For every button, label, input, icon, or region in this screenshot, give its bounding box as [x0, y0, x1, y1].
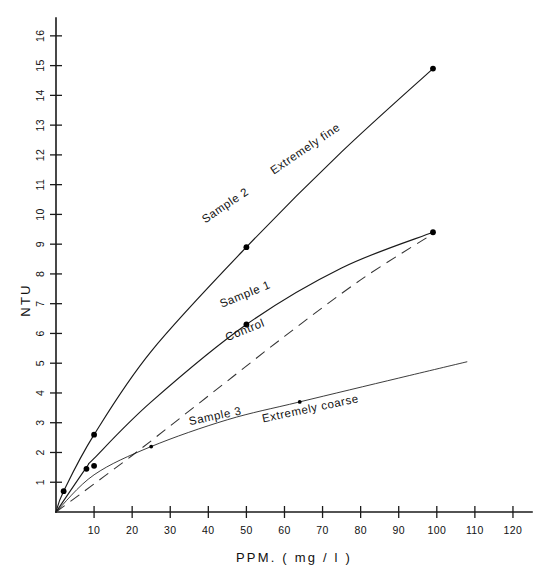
y-tick-label: 16: [34, 30, 46, 42]
series-line-sample-3: [56, 362, 467, 512]
y-tick-label: 7: [34, 301, 46, 307]
y-tick-label: 12: [34, 149, 46, 161]
x-tick-label: 80: [354, 524, 366, 536]
curve-label-sample-2: Sample 2: [200, 185, 251, 225]
y-tick-label: 13: [34, 119, 46, 131]
x-tick-label: 100: [427, 524, 446, 536]
y-tick-label: 2: [34, 449, 46, 455]
data-point: [84, 466, 90, 472]
data-point: [91, 432, 97, 438]
y-axis-title: NTU: [18, 283, 33, 316]
chart-figure: 12345678910111213141516 1020304050607080…: [0, 0, 545, 573]
x-axis-tick-labels: 102030405060708090100110120: [88, 524, 522, 536]
curve-label-extremely-fine: Extremely fine: [268, 121, 342, 176]
series-line-sample-1: [56, 232, 433, 512]
x-axis-title: PPM. ( mg / l ): [236, 550, 352, 565]
data-point: [149, 445, 153, 449]
x-tick-label: 110: [466, 524, 484, 536]
y-tick-label: 11: [34, 179, 46, 191]
y-axis-tick-labels: 12345678910111213141516: [34, 30, 46, 486]
y-tick-label: 4: [34, 390, 46, 396]
turbidity-ntu-vs-ppm-chart: 12345678910111213141516 1020304050607080…: [0, 0, 545, 573]
y-tick-label: 14: [34, 89, 46, 101]
curve-label-control: Control: [224, 316, 267, 343]
curve-annotations: Sample 2Extremely fineSample 1ControlSam…: [188, 121, 360, 427]
x-tick-label: 90: [392, 524, 404, 536]
y-tick-label: 1: [34, 479, 46, 485]
data-point: [91, 463, 97, 469]
y-tick-label: 9: [34, 241, 46, 247]
x-tick-label: 20: [126, 524, 138, 536]
y-tick-label: 15: [34, 59, 46, 71]
data-point: [430, 229, 436, 235]
x-tick-label: 30: [164, 524, 176, 536]
curve-label-extremely-coarse: Extremely coarse: [261, 392, 360, 424]
axis-lines: [56, 18, 532, 512]
series-line-control: [56, 234, 433, 512]
x-tick-label: 60: [278, 524, 290, 536]
data-point: [430, 66, 436, 72]
y-tick-label: 5: [34, 360, 46, 366]
y-tick-label: 3: [34, 420, 46, 426]
data-point: [61, 488, 67, 494]
data-point: [244, 244, 250, 250]
x-tick-label: 50: [240, 524, 252, 536]
curve-label-sample-1: Sample 1: [218, 278, 272, 309]
data-point-markers: [61, 66, 436, 494]
x-tick-label: 70: [316, 524, 328, 536]
x-tick-label: 40: [202, 524, 214, 536]
x-tick-label: 120: [504, 524, 523, 536]
y-tick-label: 6: [34, 330, 46, 336]
x-tick-label: 10: [88, 524, 100, 536]
y-tick-label: 8: [34, 271, 46, 277]
y-tick-label: 10: [34, 208, 46, 220]
